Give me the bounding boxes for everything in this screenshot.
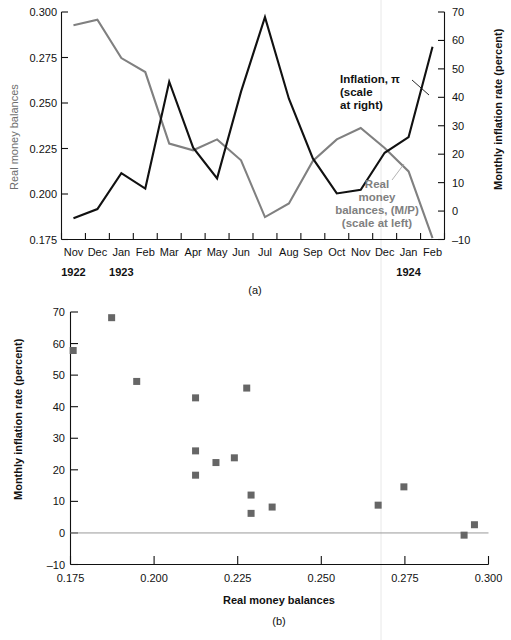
panel-b-x-tick-label: 0.250 bbox=[308, 572, 336, 584]
panel-a-month-label: Sep bbox=[303, 246, 323, 258]
panel-a-left-tick-label: 0.275 bbox=[29, 52, 57, 64]
inflation-annotation-line-1: Inflation, π bbox=[340, 73, 400, 85]
panel-a-right-tick-label: 0 bbox=[452, 205, 458, 217]
panel-b-x-tick-label: 0.300 bbox=[475, 572, 503, 584]
panel-a-year-label: 1923 bbox=[109, 266, 133, 278]
panel-a-left-tick-label: 0.175 bbox=[29, 234, 57, 246]
panel-b-y-axis: –10010203040506070 Monthly inflation rat… bbox=[12, 306, 78, 571]
panel-a-right-tick-label: 30 bbox=[452, 120, 464, 132]
scatter-point bbox=[461, 532, 468, 539]
panel-a-month-label: Aug bbox=[279, 246, 299, 258]
panel-b-y-tick-label: 70 bbox=[53, 306, 65, 318]
panel-a-svg: 0.1750.2000.2250.2500.2750.300 Real mone… bbox=[0, 0, 511, 300]
panel-a-right-tick-label: 40 bbox=[452, 91, 464, 103]
panel-a-month-label: Dec bbox=[88, 246, 108, 258]
panel-a-figure: 0.1750.2000.2250.2500.2750.300 Real mone… bbox=[0, 0, 511, 300]
panel-b-y-tick-label: 50 bbox=[53, 369, 65, 381]
scatter-point bbox=[248, 510, 255, 517]
scatter-point bbox=[133, 378, 140, 385]
panel-b-x-axis-title: Real money balances bbox=[223, 594, 335, 606]
panel-b-x-tick-label: 0.175 bbox=[57, 572, 85, 584]
panel-b-y-tick-label: 0 bbox=[59, 527, 65, 539]
panel-a-year-label: 1924 bbox=[396, 266, 421, 278]
scatter-point bbox=[269, 504, 276, 511]
panel-a-right-tick-label: 60 bbox=[452, 34, 464, 46]
panel-a-right-tick-label: 50 bbox=[452, 63, 464, 75]
scatter-point bbox=[212, 459, 219, 466]
panel-a-month-label: Jan bbox=[112, 246, 130, 258]
panel-b-x-axis: 0.1750.2000.2250.2500.2750.300 Real mone… bbox=[57, 556, 503, 606]
panel-b-y-tick-label: 40 bbox=[53, 401, 65, 413]
panel-a-right-tick-label: –10 bbox=[452, 234, 470, 246]
panel-a-month-label: Dec bbox=[375, 246, 395, 258]
scatter-point bbox=[108, 314, 115, 321]
panel-b-y-axis-title: Monthly inflation rate (percent) bbox=[12, 338, 24, 500]
scatter-point bbox=[243, 385, 250, 392]
inflation-annotation-line-2: (scale bbox=[340, 86, 373, 98]
panel-b-y-tick-label: 20 bbox=[53, 464, 65, 476]
panel-a-label: (a) bbox=[248, 284, 261, 296]
panel-a-month-label: Feb bbox=[423, 246, 442, 258]
panel-a-month-label: Nov bbox=[351, 246, 371, 258]
panel-a-month-label: Jun bbox=[232, 246, 250, 258]
panel-a-right-tick-label: 70 bbox=[452, 6, 464, 18]
inflation-annotation: Inflation, π (scale at right) bbox=[340, 73, 429, 111]
scatter-point bbox=[471, 521, 478, 528]
panel-a-right-axis: –10010203040506070 Monthly inflation rat… bbox=[438, 6, 504, 246]
panel-a-left-tick-label: 0.300 bbox=[29, 6, 57, 18]
panel-a-left-axis-title: Real money balances bbox=[8, 84, 20, 190]
panel-a-left-tick-label: 0.225 bbox=[29, 143, 57, 155]
panel-b-x-tick-label: 0.200 bbox=[140, 572, 168, 584]
scatter-point bbox=[375, 502, 382, 509]
panel-a-year-labels: 192219231924 bbox=[61, 266, 421, 278]
panel-a-right-tick-label: 10 bbox=[452, 177, 464, 189]
panel-a-bottom-axis bbox=[62, 233, 445, 240]
panel-a-right-tick-label: 20 bbox=[452, 148, 464, 160]
panel-a-month-label: Feb bbox=[136, 246, 155, 258]
scatter-point bbox=[248, 492, 255, 499]
scatter-point bbox=[192, 447, 199, 454]
panel-a-month-label: Jul bbox=[258, 246, 272, 258]
panel-b-y-tick-label: –10 bbox=[47, 559, 65, 571]
scatter-point bbox=[400, 483, 407, 490]
real-money-annotation-line-4: (scale at left) bbox=[342, 217, 412, 229]
scatter-point bbox=[231, 454, 238, 461]
panel-a-year-label: 1922 bbox=[61, 266, 85, 278]
panel-a-month-label: May bbox=[207, 246, 228, 258]
panel-b-figure: –10010203040506070 Monthly inflation rat… bbox=[0, 300, 511, 640]
scatter-point bbox=[70, 347, 77, 354]
panel-a-right-axis-title: Monthly inflation rate (percent) bbox=[492, 28, 504, 190]
panel-a-left-axis: 0.1750.2000.2250.2500.2750.300 Real mone… bbox=[8, 6, 68, 246]
panel-a-month-labels: NovDecJanFebMarAprMayJunJulAugSepOctNovD… bbox=[64, 246, 442, 258]
scatter-point bbox=[192, 472, 199, 479]
real-money-annotation: Real money balances, (M/P) (scale at lef… bbox=[335, 164, 419, 229]
panel-b-y-tick-label: 60 bbox=[53, 338, 65, 350]
real-money-annotation-line-3: balances, (M/P) bbox=[335, 204, 419, 216]
panel-a-month-label: Apr bbox=[185, 246, 202, 258]
panel-a-left-tick-label: 0.200 bbox=[29, 188, 57, 200]
real-money-annotation-line-2: money bbox=[358, 191, 396, 203]
panel-b-label: (b) bbox=[272, 615, 285, 627]
panel-a-month-label: Nov bbox=[64, 246, 84, 258]
panel-b-y-tick-label: 10 bbox=[53, 495, 65, 507]
panel-b-y-tick-label: 30 bbox=[53, 432, 65, 444]
panel-b-x-tick-label: 0.225 bbox=[224, 572, 252, 584]
panel-b-scatter-points bbox=[70, 314, 478, 538]
panel-a-month-label: Mar bbox=[160, 246, 179, 258]
inflation-annotation-line-3: at right) bbox=[340, 99, 383, 111]
panel-b-x-tick-label: 0.275 bbox=[391, 572, 419, 584]
panel-a-month-label: Oct bbox=[328, 246, 345, 258]
scatter-point bbox=[192, 394, 199, 401]
panel-a-left-tick-label: 0.250 bbox=[29, 97, 57, 109]
real-money-annotation-line-1: Real bbox=[365, 178, 389, 190]
panel-b-svg: –10010203040506070 Monthly inflation rat… bbox=[0, 300, 511, 640]
panel-a-month-label: Jan bbox=[400, 246, 418, 258]
